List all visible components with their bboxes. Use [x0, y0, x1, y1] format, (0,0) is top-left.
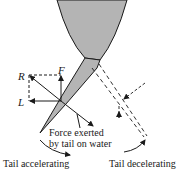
label-r: R [17, 70, 25, 82]
label-f: F [57, 64, 65, 76]
vector-water-force [61, 101, 93, 126]
vector-r [30, 76, 61, 101]
fish-body [57, 0, 127, 60]
caption-accelerating: Tail accelerating [3, 158, 69, 169]
annotation-line-1: Force exerted [49, 127, 104, 138]
annotation-line-2: by tail on water [49, 138, 112, 149]
tail-solid [40, 58, 100, 133]
label-l: L [17, 96, 24, 108]
caption-decelerating: Tail decelerating [109, 158, 176, 169]
decel-arc [124, 140, 145, 152]
fish-tail-force-diagram: R F L Force exerted by tail on water Tai… [0, 0, 194, 179]
